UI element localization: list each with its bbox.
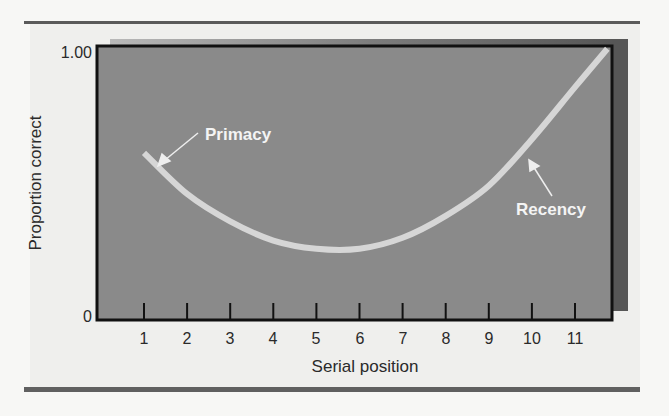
x-tick-labels: 1 2 3 4 5 6 7 8 9 10 11	[140, 330, 584, 347]
x-tick-label: 10	[523, 330, 541, 347]
x-tick-label: 3	[226, 330, 235, 347]
x-tick-label: 9	[485, 330, 494, 347]
x-axis-title: Serial position	[312, 357, 419, 376]
x-tick-label: 11	[567, 330, 584, 347]
x-tick-label: 5	[312, 330, 321, 347]
x-tick-label: 1	[140, 330, 149, 347]
x-tick-label: 2	[183, 330, 192, 347]
x-tick-label: 6	[356, 330, 365, 347]
y-tick-label-bottom: 0	[83, 308, 92, 325]
recency-label: Recency	[516, 200, 586, 219]
x-tick-label: 4	[269, 330, 278, 347]
x-tick-label: 8	[442, 330, 451, 347]
y-tick-label-top: 1.00	[61, 44, 92, 61]
serial-position-chart: Primacy Recency 1.00 0 1 2 3 4 5 6 7 8 9…	[0, 0, 669, 416]
x-tick-label: 7	[399, 330, 408, 347]
primacy-label: Primacy	[205, 125, 272, 144]
